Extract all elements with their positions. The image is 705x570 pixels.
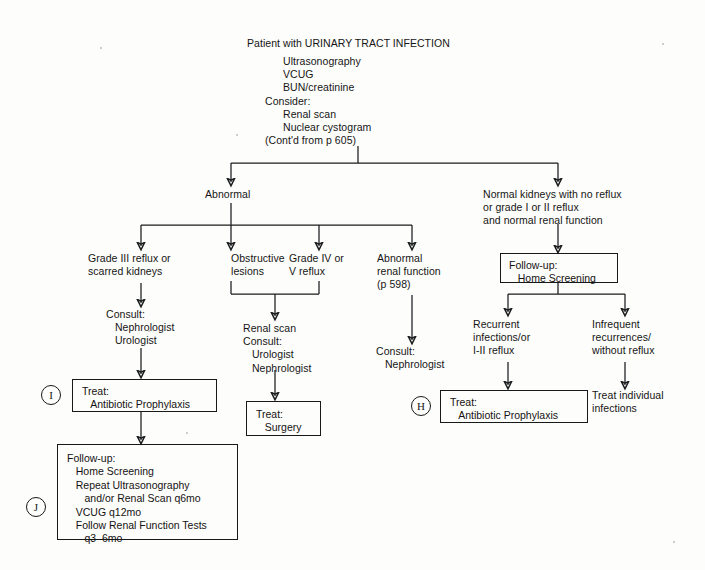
- page-title: Patient with URINARY TRACT INFECTION: [247, 37, 450, 50]
- scan-speck: [148, 330, 150, 332]
- consult-obstructive: Renal scan Consult: Urologist Nephrologi…: [243, 322, 311, 375]
- consider-items: Renal scan Nuclear cystogram: [283, 108, 371, 134]
- box-followup-long-term-text: Follow-up: Home Screening Repeat Ultraso…: [67, 452, 207, 546]
- node-infrequent-recurrences: Infrequent recurrences/ without reflux: [592, 318, 655, 358]
- node-recurrent-infections: Recurrent infections/or I-II reflux: [473, 318, 530, 358]
- box-treat-surgery-text: Treat: Surgery: [256, 408, 302, 435]
- box-treat-surgery: Treat: Surgery: [246, 401, 321, 436]
- scan-speck: [186, 432, 188, 434]
- scan-speck: [236, 134, 238, 136]
- scan-speck: [100, 47, 102, 49]
- box-followup-home-screening-text: Follow-up: Home Screening: [509, 259, 596, 286]
- node-grade-iii-reflux: Grade III reflux or scarred kidneys: [88, 252, 171, 278]
- box-treat-antibiotic-right-text: Treat: Antibiotic Prophylaxis: [450, 396, 558, 423]
- scan-speck: [673, 541, 675, 543]
- consider-label: Consider:: [265, 95, 310, 108]
- box-treat-antibiotic-left-text: Treat: Antibiotic Prophylaxis: [82, 385, 190, 412]
- node-obstructive-lesions: Obstructive lesions: [231, 252, 285, 278]
- continuation-note: (Cont'd from p 605): [265, 134, 356, 147]
- box-treat-antibiotic-prophylaxis-right: Treat: Antibiotic Prophylaxis: [440, 390, 588, 423]
- branch-label-abnormal: Abnormal: [205, 188, 250, 201]
- box-followup-long-term: Follow-up: Home Screening Repeat Ultraso…: [57, 444, 238, 540]
- marker-i: I: [41, 385, 61, 405]
- box-followup-home-screening: Follow-up: Home Screening: [500, 253, 618, 283]
- consult-abnormal-renal: Consult: Nephrologist: [376, 345, 444, 371]
- box-treat-antibiotic-prophylaxis-left: Treat: Antibiotic Prophylaxis: [72, 379, 217, 412]
- node-abnormal-renal-function: Abnormal renal function (p 598): [377, 252, 441, 292]
- node-grade-iv-v-reflux: Grade IV or V reflux: [289, 252, 344, 278]
- marker-j: J: [26, 497, 46, 517]
- branch-label-normal: Normal kidneys with no reflux or grade I…: [483, 188, 622, 228]
- consult-grade-iii: Consult: Nephrologist Urologist: [106, 308, 174, 348]
- workup-list: Ultrasonography VCUG BUN/creatinine: [283, 55, 361, 95]
- marker-h: H: [411, 396, 431, 416]
- node-treat-individual-infections: Treat individual infections: [592, 389, 664, 415]
- scan-speck: [662, 43, 664, 45]
- flowchart-page: Patient with URINARY TRACT INFECTION Ult…: [0, 0, 705, 570]
